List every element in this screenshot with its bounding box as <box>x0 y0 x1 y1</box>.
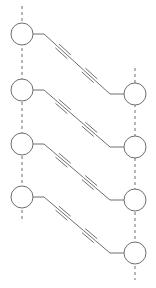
linker-single-bond <box>44 90 57 101</box>
right-node-circle <box>124 242 146 264</box>
linker-single-bond <box>44 197 57 208</box>
left-node-circle <box>11 186 33 208</box>
linker-single-bond <box>44 34 57 46</box>
right-node-circle <box>124 83 146 105</box>
ladder-diagram <box>0 0 156 288</box>
right-node-circle <box>124 189 146 211</box>
linker-single-bond <box>69 112 84 125</box>
linker-single-bond <box>69 218 84 230</box>
linker-single-bond <box>69 165 84 177</box>
left-node-circle <box>11 133 33 155</box>
linker-single-bond <box>69 57 84 70</box>
left-node-circle <box>11 23 33 45</box>
linker-single-bond <box>95 81 110 94</box>
linker-single-bond <box>95 134 110 147</box>
linker-single-bond <box>95 188 110 200</box>
linker-single-bond <box>44 144 57 155</box>
linker-single-bond <box>95 241 110 253</box>
right-node-circle <box>124 136 146 158</box>
left-node-circle <box>11 79 33 101</box>
